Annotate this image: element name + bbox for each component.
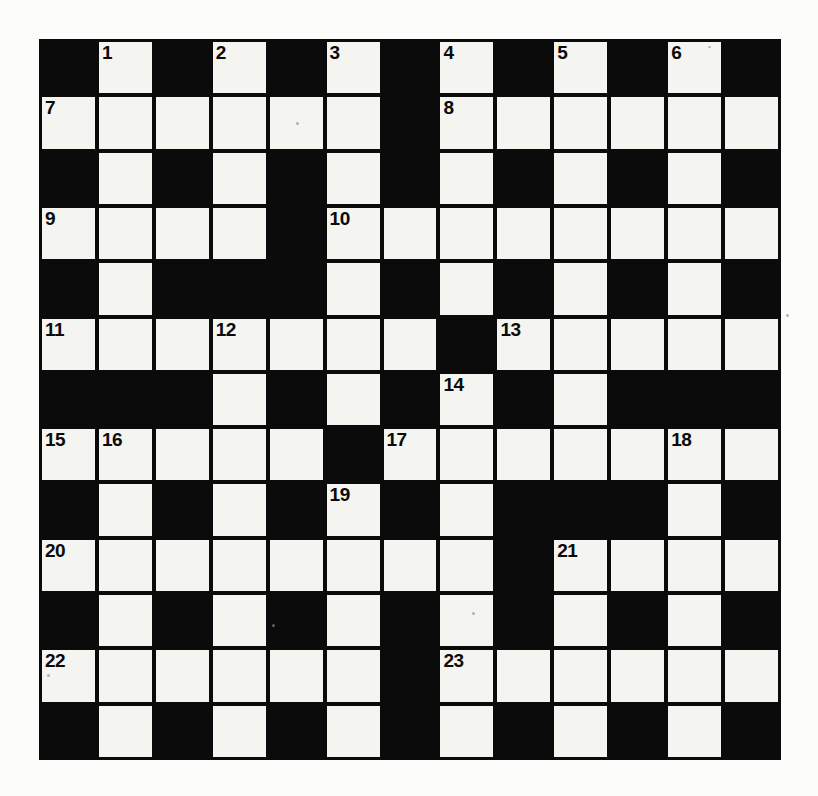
grid-cell-white[interactable] [495,206,552,261]
grid-cell-white[interactable] [723,206,780,261]
grid-cell-white[interactable]: 17 [382,427,439,482]
grid-cell-white[interactable] [438,704,495,759]
grid-cell-white[interactable] [325,151,382,206]
grid-cell-white[interactable] [154,317,211,372]
grid-cell-white[interactable]: 7 [40,95,97,150]
grid-cell-white[interactable] [97,704,154,759]
grid-cell-white[interactable]: 20 [40,538,97,593]
grid-cell-white[interactable] [97,648,154,703]
grid-cell-white[interactable] [438,538,495,593]
grid-cell-white[interactable] [609,95,666,150]
grid-cell-white[interactable] [97,482,154,537]
grid-cell-white[interactable] [666,704,723,759]
grid-cell-white[interactable] [552,648,609,703]
grid-cell-white[interactable] [609,648,666,703]
grid-cell-white[interactable] [438,593,495,648]
grid-cell-white[interactable] [666,261,723,316]
grid-cell-white[interactable]: 23 [438,648,495,703]
grid-cell-white[interactable] [438,427,495,482]
grid-cell-white[interactable] [211,427,268,482]
grid-cell-white[interactable] [609,206,666,261]
grid-cell-white[interactable] [666,648,723,703]
grid-cell-white[interactable] [495,427,552,482]
grid-cell-white[interactable] [211,206,268,261]
grid-cell-white[interactable] [382,206,439,261]
grid-cell-white[interactable] [666,95,723,150]
grid-cell-white[interactable]: 4 [438,40,495,95]
grid-cell-white[interactable]: 15 [40,427,97,482]
grid-cell-white[interactable] [552,151,609,206]
grid-cell-white[interactable] [97,95,154,150]
grid-cell-white[interactable]: 19 [325,482,382,537]
grid-cell-white[interactable]: 22 [40,648,97,703]
grid-cell-white[interactable] [211,151,268,206]
grid-cell-white[interactable]: 1 [97,40,154,95]
grid-cell-white[interactable]: 6 [666,40,723,95]
grid-cell-white[interactable] [552,427,609,482]
grid-cell-white[interactable] [552,206,609,261]
grid-cell-white[interactable] [325,261,382,316]
grid-cell-white[interactable] [268,95,325,150]
grid-cell-white[interactable] [268,317,325,372]
grid-cell-white[interactable] [609,427,666,482]
crossword-grid[interactable]: 1234567891011121314151617181920212223 [39,39,781,760]
grid-cell-white[interactable] [552,593,609,648]
grid-cell-white[interactable]: 8 [438,95,495,150]
grid-cell-white[interactable]: 13 [495,317,552,372]
grid-cell-white[interactable] [325,538,382,593]
grid-cell-white[interactable] [325,317,382,372]
grid-cell-white[interactable] [97,261,154,316]
grid-cell-white[interactable]: 11 [40,317,97,372]
grid-cell-white[interactable]: 3 [325,40,382,95]
grid-cell-white[interactable]: 14 [438,372,495,427]
grid-cell-white[interactable] [723,317,780,372]
grid-cell-white[interactable] [154,206,211,261]
grid-cell-white[interactable] [723,648,780,703]
grid-cell-white[interactable] [382,317,439,372]
grid-cell-white[interactable] [325,372,382,427]
grid-cell-white[interactable] [495,648,552,703]
grid-cell-white[interactable] [666,593,723,648]
grid-cell-white[interactable] [552,261,609,316]
grid-cell-white[interactable]: 18 [666,427,723,482]
grid-cell-white[interactable] [325,95,382,150]
grid-cell-white[interactable]: 5 [552,40,609,95]
grid-cell-white[interactable] [325,648,382,703]
grid-cell-white[interactable]: 16 [97,427,154,482]
grid-cell-white[interactable] [325,704,382,759]
grid-cell-white[interactable] [97,151,154,206]
grid-cell-white[interactable] [438,482,495,537]
grid-cell-white[interactable] [268,427,325,482]
grid-cell-white[interactable] [211,482,268,537]
grid-cell-white[interactable]: 9 [40,206,97,261]
grid-cell-white[interactable] [211,95,268,150]
grid-cell-white[interactable] [438,261,495,316]
grid-cell-white[interactable] [438,151,495,206]
grid-cell-white[interactable] [609,317,666,372]
grid-cell-white[interactable] [154,648,211,703]
grid-cell-white[interactable] [211,372,268,427]
grid-cell-white[interactable]: 10 [325,206,382,261]
grid-cell-white[interactable] [609,538,666,593]
grid-cell-white[interactable] [211,704,268,759]
grid-cell-white[interactable] [438,206,495,261]
grid-cell-white[interactable] [666,151,723,206]
grid-cell-white[interactable] [666,317,723,372]
grid-cell-white[interactable] [211,538,268,593]
grid-cell-white[interactable] [666,482,723,537]
grid-cell-white[interactable] [211,593,268,648]
grid-cell-white[interactable] [211,648,268,703]
grid-cell-white[interactable] [552,317,609,372]
grid-cell-white[interactable] [723,427,780,482]
grid-cell-white[interactable]: 21 [552,538,609,593]
grid-cell-white[interactable] [552,372,609,427]
grid-cell-white[interactable] [97,538,154,593]
grid-cell-white[interactable] [552,704,609,759]
grid-cell-white[interactable] [495,95,552,150]
grid-cell-white[interactable] [97,206,154,261]
grid-cell-white[interactable]: 2 [211,40,268,95]
grid-cell-white[interactable] [154,538,211,593]
grid-cell-white[interactable] [552,95,609,150]
grid-cell-white[interactable] [97,317,154,372]
grid-cell-white[interactable] [268,648,325,703]
